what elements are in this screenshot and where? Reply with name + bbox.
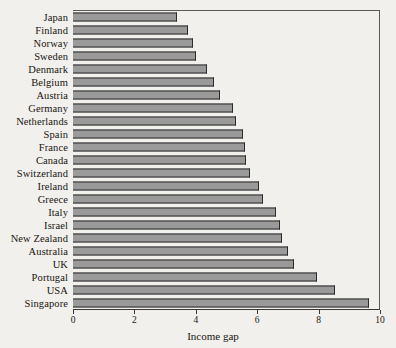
bar-row: UK [0, 258, 396, 271]
bar-row: Finland [0, 23, 396, 36]
x-axis-tick-label: 0 [71, 315, 76, 326]
x-axis-title-text: Income gap [187, 330, 239, 343]
x-axis-title: Income gap [0, 330, 396, 343]
bar-row: France [0, 140, 396, 153]
bar-row: New Zealand [0, 232, 396, 245]
bar-row: Canada [0, 153, 396, 166]
x-axis-tick [380, 310, 381, 314]
category-label: Portugal [0, 272, 68, 283]
category-label: Israel [0, 220, 68, 231]
bar [73, 142, 245, 151]
category-label: Ireland [0, 181, 68, 192]
bar-row: Spain [0, 127, 396, 140]
bar [73, 208, 276, 217]
bar [73, 286, 335, 295]
bar [73, 182, 259, 191]
bar [73, 64, 207, 73]
bar-row: Belgium [0, 75, 396, 88]
bar-row: Netherlands [0, 114, 396, 127]
x-axis-tick-label: 10 [375, 315, 385, 326]
x-axis: Income gap 0246810 [0, 310, 396, 348]
category-label: UK [0, 259, 68, 270]
bar [73, 77, 214, 86]
bar-row: Ireland [0, 180, 396, 193]
bar-row: Norway [0, 36, 396, 49]
bar [73, 12, 177, 21]
category-label: Greece [0, 194, 68, 205]
bar-row: USA [0, 284, 396, 297]
category-label: Canada [0, 154, 68, 165]
bar-row: Denmark [0, 62, 396, 75]
x-axis-tick [257, 310, 258, 314]
category-label: Japan [0, 11, 68, 22]
bar [73, 155, 246, 164]
category-label: Denmark [0, 63, 68, 74]
bar [73, 299, 369, 308]
x-axis-tick [196, 310, 197, 314]
x-axis-tick-label: 2 [132, 315, 137, 326]
bar-row: Australia [0, 245, 396, 258]
bar [73, 247, 288, 256]
bar [73, 260, 294, 269]
bar-row: Austria [0, 88, 396, 101]
category-label: Australia [0, 246, 68, 257]
bar [73, 234, 282, 243]
category-label: Netherlands [0, 115, 68, 126]
bar-row: Sweden [0, 49, 396, 62]
bar-row: Israel [0, 219, 396, 232]
category-label: Singapore [0, 298, 68, 309]
category-label: Germany [0, 102, 68, 113]
category-label: Sweden [0, 50, 68, 61]
x-axis-tick [134, 310, 135, 314]
bar [73, 103, 233, 112]
bar-row: Switzerland [0, 167, 396, 180]
category-label: USA [0, 285, 68, 296]
x-axis-tick-label: 4 [193, 315, 198, 326]
category-label: New Zealand [0, 233, 68, 244]
x-axis-tick [319, 310, 320, 314]
bar [73, 273, 317, 282]
bar-rows-container: JapanFinlandNorwaySwedenDenmarkBelgiumAu… [0, 10, 396, 310]
x-axis-tick-label: 6 [255, 315, 260, 326]
category-label: Austria [0, 89, 68, 100]
bar [73, 38, 193, 47]
category-label: Belgium [0, 76, 68, 87]
category-label: Switzerland [0, 168, 68, 179]
x-axis-tick [73, 310, 74, 314]
category-label: Finland [0, 24, 68, 35]
bar-row: Italy [0, 206, 396, 219]
bar [73, 25, 188, 34]
bar [73, 221, 280, 230]
category-label: Italy [0, 207, 68, 218]
category-label: France [0, 141, 68, 152]
bar [73, 169, 250, 178]
bar-row: Japan [0, 10, 396, 23]
x-axis-tick-label: 8 [316, 315, 321, 326]
income-gap-bar-chart: JapanFinlandNorwaySwedenDenmarkBelgiumAu… [0, 0, 396, 348]
bar [73, 195, 263, 204]
bar-row: Portugal [0, 271, 396, 284]
category-label: Norway [0, 37, 68, 48]
category-label: Spain [0, 128, 68, 139]
bar [73, 90, 220, 99]
bar [73, 116, 236, 125]
bar [73, 51, 196, 60]
bar-row: Singapore [0, 297, 396, 310]
bar-row: Germany [0, 101, 396, 114]
bar-row: Greece [0, 193, 396, 206]
bar [73, 129, 243, 138]
